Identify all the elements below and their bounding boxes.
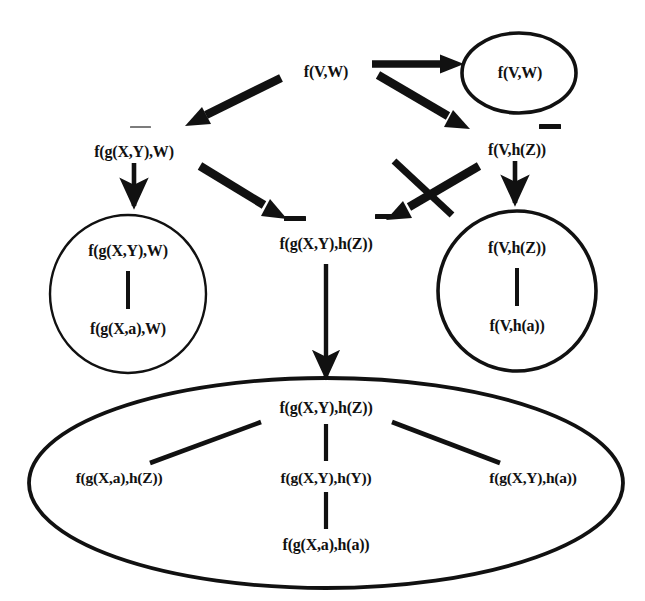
node-right-mid: f(V,h(Z)) — [488, 142, 546, 158]
diagram-canvas: f(V,W) f(V,W) f(g(X,Y),W) f(V,h(Z)) f(g(… — [0, 0, 645, 601]
edge-root-to-right-mid — [378, 75, 470, 129]
edge-ellipse-top-to-left — [150, 422, 261, 463]
node-right-circle-top: f(V,h(Z)) — [488, 240, 546, 256]
node-ellipse-bottom: f(g(X,a),h(a)) — [283, 537, 370, 553]
negation-bar-center-right — [375, 214, 398, 219]
edge-ellipse-top-to-right — [392, 422, 500, 463]
edge-root-to-top-right-ellipse — [372, 55, 464, 74]
node-ellipse-right: f(g(X,Y),h(a)) — [489, 470, 577, 486]
negation-bar-center-left — [284, 216, 306, 221]
edge-right-mid-to-center-crossed-out — [386, 161, 479, 220]
node-left-mid: f(g(X,Y),W) — [94, 144, 174, 160]
diagram-graphics — [0, 0, 645, 601]
negation-bar-right-mid — [539, 124, 561, 129]
node-left-circle-top: f(g(X,Y),W) — [88, 243, 168, 259]
edge-root-to-left-mid — [185, 78, 281, 126]
node-ellipse-top: f(g(X,Y),h(Z)) — [279, 400, 372, 416]
node-right-circle-bottom: f(V,h(a)) — [489, 318, 544, 334]
negation-bar-left-mid — [130, 126, 151, 128]
edge-left-mid-to-center — [200, 166, 287, 219]
node-ellipse-center: f(g(X,Y),h(Y)) — [280, 470, 371, 486]
node-top-right-ellipse: f(V,W) — [498, 65, 542, 81]
node-ellipse-left: f(g(X,a),h(Z)) — [76, 470, 163, 486]
node-root: f(V,W) — [304, 64, 348, 80]
node-left-circle-bottom: f(g(X,a),W) — [90, 321, 166, 337]
node-center: f(g(X,Y),h(Z)) — [279, 236, 372, 252]
